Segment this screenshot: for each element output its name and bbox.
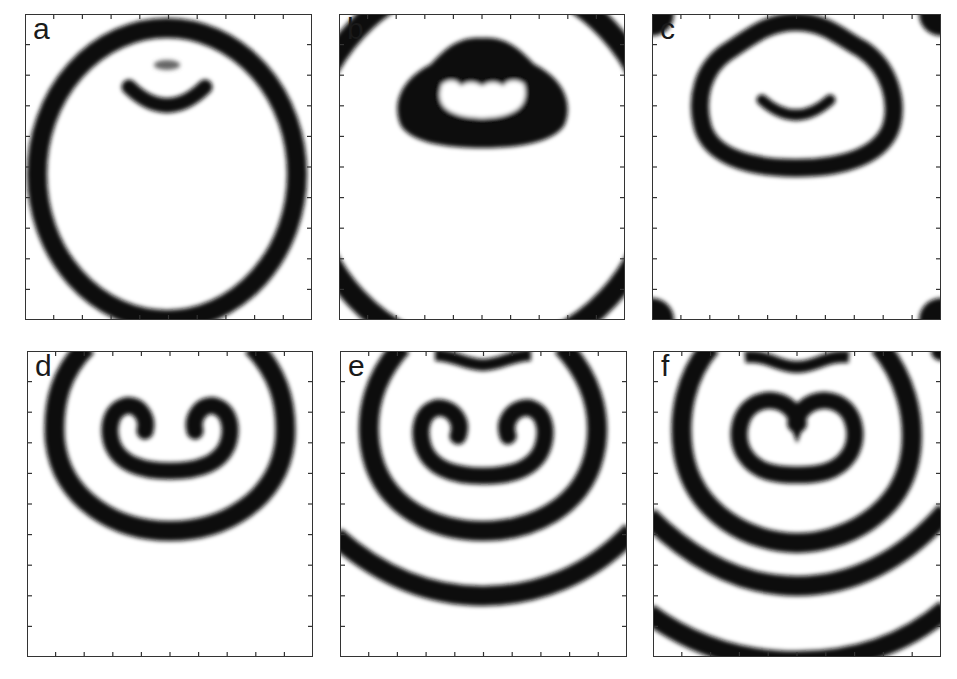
pattern-field-f [653, 351, 941, 657]
panel-f: f [653, 351, 941, 657]
panel-label-a: a [33, 14, 50, 44]
pattern-field-c [652, 14, 941, 320]
panel-label-b: b [347, 14, 364, 44]
pattern-field-e [340, 351, 627, 657]
panel-label-d: d [35, 351, 52, 381]
panel-e: e [340, 351, 627, 657]
panel-label-f: f [661, 351, 669, 381]
panel-b: b [339, 14, 625, 320]
panel-d: d [27, 351, 313, 657]
panel-label-e: e [348, 351, 365, 381]
pattern-field-a [25, 14, 312, 320]
panel-label-c: c [660, 14, 675, 44]
panel-a: a [25, 14, 312, 320]
pattern-field-d [27, 351, 313, 657]
panel-c: c [652, 14, 941, 320]
pattern-field-b [339, 14, 625, 320]
